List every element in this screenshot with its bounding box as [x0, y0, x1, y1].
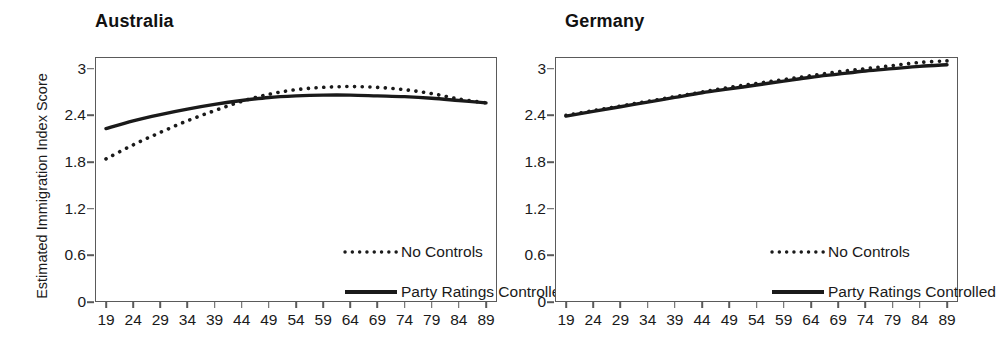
x-tick-mark: [592, 302, 594, 308]
legend-item-no-controls: No Controls: [770, 243, 910, 261]
chart-panel-australia: Australia Estimated Immigration Index Sc…: [0, 0, 500, 355]
x-tick-mark: [295, 302, 297, 308]
x-tick-mark: [214, 302, 216, 308]
x-tick-mark: [701, 302, 703, 308]
x-tick-mark: [105, 302, 107, 308]
x-tick-mark: [756, 302, 758, 308]
x-tick-label: 64: [342, 311, 359, 329]
x-tick-label: 49: [260, 311, 277, 329]
x-tick-label: 39: [206, 311, 223, 329]
y-tick-mark: [547, 255, 554, 257]
plot-curves-germany: [555, 57, 958, 302]
legend-item-party-ratings-controlled: Party Ratings Controlled: [770, 283, 996, 301]
x-tick-mark: [431, 302, 433, 308]
x-tick-label: 39: [666, 311, 683, 329]
x-tick-label: 89: [938, 311, 955, 329]
x-tick-mark: [783, 302, 785, 308]
x-tick-mark: [892, 302, 894, 308]
x-tick-mark: [865, 302, 867, 308]
y-tick-mark: [87, 68, 94, 70]
x-tick-label: 29: [152, 311, 169, 329]
x-tick-mark: [647, 302, 649, 308]
y-tick-label: 1.2: [524, 200, 546, 218]
legend-item-no-controls: No Controls: [343, 243, 483, 261]
series-line-party-ratings-controlled: [106, 95, 486, 129]
plot-curves-australia: [95, 57, 497, 302]
x-tick-label: 54: [287, 311, 304, 329]
x-tick-label: 44: [233, 311, 250, 329]
x-tick-label: 49: [721, 311, 738, 329]
y-tick-label: 1.2: [64, 200, 86, 218]
panel-title-germany: Germany: [565, 11, 644, 32]
y-tick-mark: [87, 301, 94, 303]
y-tick-mark: [87, 255, 94, 257]
x-tick-mark: [946, 302, 948, 308]
x-tick-mark: [377, 302, 379, 308]
x-tick-label: 84: [450, 311, 467, 329]
x-tick-mark: [565, 302, 567, 308]
x-tick-label: 79: [423, 311, 440, 329]
y-tick-mark: [87, 115, 94, 117]
x-tick-mark: [485, 302, 487, 308]
y-tick-label: 2.4: [524, 106, 546, 124]
y-tick-mark: [87, 161, 94, 163]
legend-label-no-controls: No Controls: [828, 243, 910, 261]
x-tick-label: 44: [693, 311, 710, 329]
x-tick-label: 69: [830, 311, 847, 329]
x-tick-mark: [404, 302, 406, 308]
y-tick-mark: [547, 161, 554, 163]
y-tick-mark: [547, 208, 554, 210]
y-tick-mark: [547, 301, 554, 303]
x-tick-label: 59: [775, 311, 792, 329]
legend-label-no-controls: No Controls: [401, 243, 483, 261]
x-tick-mark: [349, 302, 351, 308]
x-tick-mark: [674, 302, 676, 308]
x-tick-label: 74: [396, 311, 413, 329]
dotted-line-icon: [770, 245, 826, 259]
x-tick-label: 19: [97, 311, 114, 329]
y-tick-label: 0.6: [64, 246, 86, 264]
y-tick-label: 1.8: [524, 153, 546, 171]
y-axis-title: Estimated Immigration Index Score: [34, 56, 50, 316]
x-tick-label: 24: [585, 311, 602, 329]
x-tick-label: 19: [557, 311, 574, 329]
x-tick-label: 34: [639, 311, 656, 329]
plot-area-germany: 00.61.21.82.43 1924293439444954596469747…: [555, 57, 958, 302]
x-tick-mark: [268, 302, 270, 308]
x-tick-label: 64: [802, 311, 819, 329]
y-tick-label: 2.4: [64, 106, 86, 124]
x-tick-mark: [837, 302, 839, 308]
y-tick-label: 0: [77, 293, 86, 311]
y-tick-label: 3: [537, 60, 546, 78]
x-tick-label: 59: [315, 311, 332, 329]
x-tick-mark: [241, 302, 243, 308]
x-tick-mark: [159, 302, 161, 308]
x-tick-mark: [132, 302, 134, 308]
plot-area-australia: 00.61.21.82.43 1924293439444954596469747…: [95, 57, 497, 302]
y-tick-mark: [547, 68, 554, 70]
x-tick-label: 89: [477, 311, 494, 329]
x-tick-label: 29: [612, 311, 629, 329]
x-tick-label: 79: [884, 311, 901, 329]
y-tick-label: 0.6: [524, 246, 546, 264]
legend-label-party-ratings-controlled: Party Ratings Controlled: [828, 283, 996, 301]
x-tick-mark: [919, 302, 921, 308]
series-line-party-ratings-controlled: [566, 65, 947, 116]
x-tick-mark: [810, 302, 812, 308]
x-tick-label: 34: [179, 311, 196, 329]
dotted-line-icon: [343, 245, 399, 259]
x-tick-label: 69: [369, 311, 386, 329]
x-tick-label: 84: [911, 311, 928, 329]
y-tick-label: 0: [537, 293, 546, 311]
x-tick-label: 74: [857, 311, 874, 329]
x-tick-mark: [322, 302, 324, 308]
y-tick-mark: [547, 115, 554, 117]
y-tick-label: 3: [77, 60, 86, 78]
panel-title-australia: Australia: [95, 11, 174, 32]
y-tick-mark: [87, 208, 94, 210]
x-tick-label: 24: [125, 311, 142, 329]
x-tick-mark: [728, 302, 730, 308]
solid-line-icon: [770, 285, 826, 299]
solid-line-icon: [343, 285, 399, 299]
